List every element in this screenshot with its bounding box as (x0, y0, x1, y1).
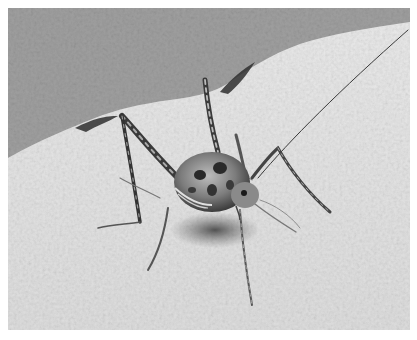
cricket-eye (241, 190, 247, 196)
cricket-photograph (8, 8, 410, 330)
cricket-shadow (170, 212, 260, 248)
